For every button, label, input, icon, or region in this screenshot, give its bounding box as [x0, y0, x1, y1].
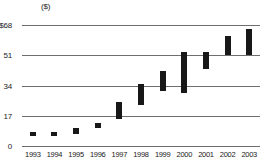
y-axis-tick-label: 0: [0, 142, 12, 151]
range-bar: [51, 132, 57, 136]
gridline: [22, 146, 260, 147]
y-axis-tick-label: $68: [0, 21, 12, 30]
x-axis-tick-label: 2003: [236, 150, 262, 159]
range-bar: [30, 132, 36, 136]
range-bar: [181, 52, 187, 93]
x-axis-tick-labels: 1993199419951996199719981999200020012002…: [22, 150, 260, 164]
range-bar: [246, 29, 252, 56]
y-axis-unit-label: ($): [41, 2, 50, 12]
range-bar: [225, 36, 231, 56]
y-axis-tick-label: 51: [0, 51, 12, 60]
range-bar: [203, 52, 209, 70]
gridline: [22, 116, 260, 117]
range-bar: [95, 123, 101, 128]
gridline: [22, 25, 260, 26]
range-bar: [116, 102, 122, 120]
y-axis-tick-label: 34: [0, 82, 12, 91]
plot-area: $685134170: [22, 25, 260, 146]
y-axis-tick-label: 17: [0, 112, 12, 121]
chart-container: ($) $685134170 1993199419951996199719981…: [0, 0, 265, 167]
range-bar: [138, 84, 144, 105]
range-bar: [73, 128, 79, 133]
range-bar: [160, 71, 166, 91]
